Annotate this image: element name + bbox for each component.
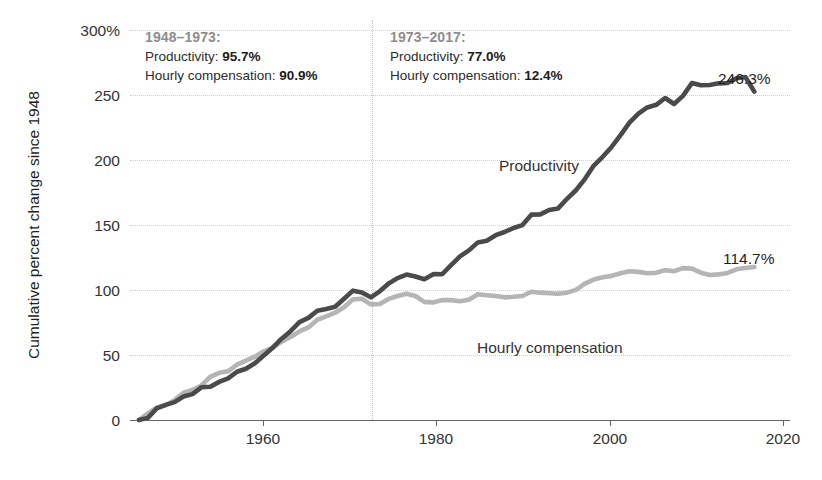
x-tickmark-1980 — [436, 420, 437, 426]
y-tick-label-0: 0 — [42, 412, 120, 430]
y-tick-label-200: 200 — [42, 152, 120, 170]
productivity-pay-gap-chart: Cumulative percent change since 1948 300… — [0, 0, 822, 480]
annotation-2-row-1-value: 77.0% — [467, 49, 505, 64]
y-tick-label-100: 100 — [42, 282, 120, 300]
annotation-1948-1973: 1948–1973: Productivity: 95.7% Hourly co… — [145, 28, 318, 85]
annotation-1-row-2-value: 90.9% — [279, 68, 317, 83]
end-value-productivity: 246.3% — [718, 70, 771, 88]
end-value-hourly-compensation: 114.7% — [723, 250, 774, 268]
x-tick-label-1960: 1960 — [218, 430, 308, 448]
annotation-2-row-2-value: 12.4% — [524, 68, 562, 83]
annotation-2-row-compensation: Hourly compensation: 12.4% — [390, 66, 563, 85]
series-label-hourly-compensation: Hourly compensation — [477, 339, 623, 357]
annotation-1-row-1-value: 95.7% — [222, 49, 260, 64]
y-tick-label-300: 300% — [42, 22, 120, 40]
annotation-2-row-1-label: Productivity: — [390, 49, 464, 64]
annotation-1973-2017: 1973–2017: Productivity: 77.0% Hourly co… — [390, 28, 563, 85]
x-tickmark-1960 — [263, 420, 264, 426]
annotation-1-row-productivity: Productivity: 95.7% — [145, 47, 318, 66]
hourly-compensation-line — [139, 267, 754, 420]
annotation-1-heading: 1948–1973: — [145, 28, 318, 47]
annotation-1-row-2-label: Hourly compensation: — [145, 68, 276, 83]
x-tickmark-2000 — [610, 420, 611, 426]
y-axis-title: Cumulative percent change since 1948 — [25, 25, 43, 425]
x-tick-label-2020: 2020 — [738, 430, 822, 448]
annotation-1-row-compensation: Hourly compensation: 90.9% — [145, 66, 318, 85]
annotation-2-row-2-label: Hourly compensation: — [390, 68, 521, 83]
x-axis-line — [130, 420, 790, 421]
annotation-2-row-productivity: Productivity: 77.0% — [390, 47, 563, 66]
y-tick-label-150: 150 — [42, 217, 120, 235]
x-tickmark-2020 — [783, 420, 784, 426]
x-tick-label-1980: 1980 — [391, 430, 481, 448]
x-tick-label-2000: 2000 — [565, 430, 655, 448]
annotation-1-row-1-label: Productivity: — [145, 49, 219, 64]
annotation-2-heading: 1973–2017: — [390, 28, 563, 47]
series-label-productivity: Productivity — [499, 157, 579, 175]
y-tick-label-50: 50 — [42, 347, 120, 365]
y-tick-label-250: 250 — [42, 87, 120, 105]
